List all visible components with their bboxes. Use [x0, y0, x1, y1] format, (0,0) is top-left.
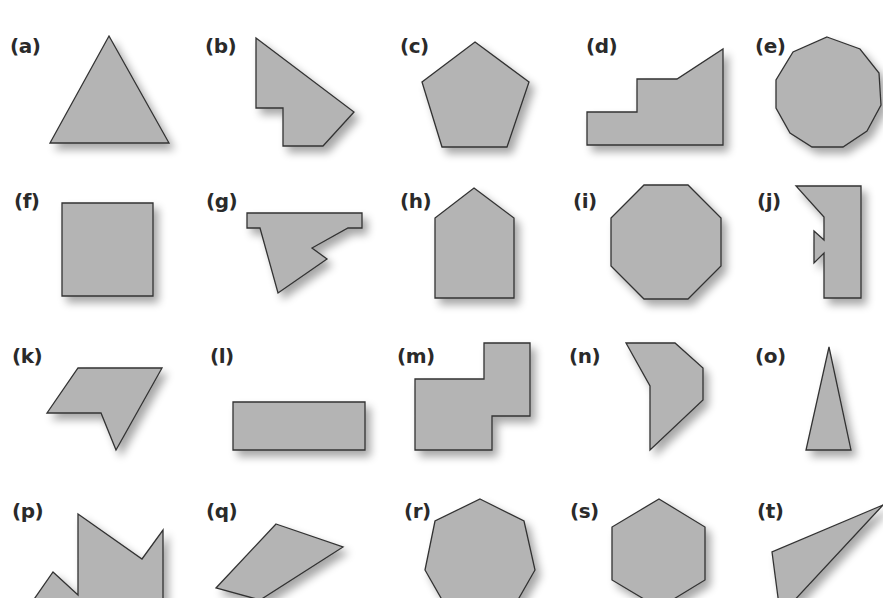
figure-label: (t) — [757, 501, 783, 521]
notched-polygon-shape — [796, 186, 861, 298]
figure-label: (l) — [210, 346, 234, 366]
figure-label: (s) — [570, 501, 599, 521]
figure-label: (i) — [573, 191, 597, 211]
figure-label: (c) — [400, 36, 429, 56]
irregular-hexagon-shape — [256, 38, 354, 146]
figure-label: (p) — [12, 501, 43, 521]
square-shape — [62, 203, 153, 296]
figure-label: (n) — [569, 346, 600, 366]
octagon-shape — [611, 185, 721, 299]
figure-label: (o) — [755, 346, 786, 366]
figure-label: (d) — [586, 36, 617, 56]
concave-pentagon-shape — [47, 368, 162, 450]
jagged-polygon-shape — [30, 514, 163, 598]
figure-label: (m) — [397, 346, 435, 366]
pentagon-shape — [422, 42, 529, 147]
shapes-canvas — [0, 0, 883, 598]
irregular-pentagon-shape — [626, 343, 703, 450]
figure-label: (j) — [757, 191, 781, 211]
stepped-polygon-shape — [587, 49, 723, 145]
isosceles-triangle-shape — [806, 347, 851, 450]
irregular-polygon-shape — [247, 213, 362, 293]
figure-label: (b) — [205, 36, 236, 56]
figure-label: (f) — [14, 191, 39, 211]
decagon-shape — [776, 37, 881, 147]
figure-label: (g) — [206, 191, 237, 211]
triangle-shape — [50, 36, 169, 143]
figure-label: (e) — [755, 36, 785, 56]
quadrilateral-shape — [216, 524, 343, 598]
hexagon-shape — [612, 499, 705, 598]
figure-label: (a) — [10, 36, 40, 56]
house-pentagon-shape — [435, 188, 514, 298]
heptagon-shape — [425, 499, 535, 598]
rectangle-shape — [233, 402, 365, 450]
polygon-figure: (a)(b)(c)(d)(e)(f)(g)(h)(i)(j)(k)(l)(m)(… — [0, 0, 883, 598]
figure-label: (r) — [404, 501, 431, 521]
scalene-triangle-shape — [772, 505, 883, 598]
figure-label: (h) — [400, 191, 431, 211]
figure-label: (k) — [12, 346, 42, 366]
figure-label: (q) — [206, 501, 237, 521]
